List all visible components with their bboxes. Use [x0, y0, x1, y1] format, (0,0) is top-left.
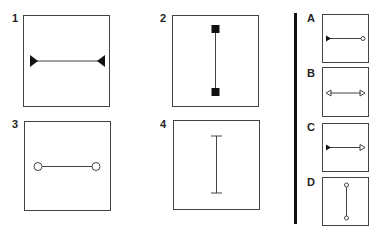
square-top-icon — [212, 25, 220, 33]
puzzle-diagram — [0, 0, 383, 231]
option-b-box[interactable] — [323, 68, 369, 117]
triangle-right-icon — [97, 55, 105, 67]
triangle-left-icon — [30, 55, 38, 67]
divider — [294, 13, 297, 224]
option-d-box[interactable] — [323, 178, 369, 226]
square-bottom-icon — [212, 88, 220, 96]
